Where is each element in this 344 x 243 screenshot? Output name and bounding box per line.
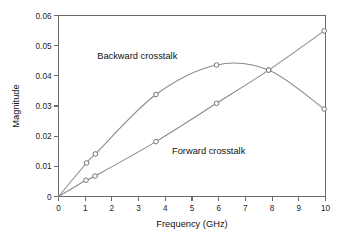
y-tick-label: 0.05 — [36, 42, 52, 51]
data-point-marker — [214, 63, 219, 68]
series-line-backward — [59, 63, 325, 197]
data-point-marker — [93, 152, 98, 157]
x-tick-label: 3 — [136, 204, 141, 213]
x-tick-label: 0 — [56, 204, 61, 213]
y-tick-label: 0.04 — [36, 72, 52, 81]
axis-tick-labels: 01234567891000.010.020.030.040.050.06 — [36, 12, 331, 213]
axis-ticks — [54, 16, 326, 202]
x-tick-label: 6 — [216, 204, 221, 213]
x-axis-title: Frequency (GHz) — [156, 219, 227, 229]
y-tick-label: 0.03 — [36, 102, 52, 111]
chart-figure: 01234567891000.010.020.030.040.050.06 Ba… — [0, 0, 344, 243]
data-point-marker — [322, 29, 327, 34]
series-annotations: Backward crosstalkForward crosstalk — [97, 51, 245, 156]
crosstalk-line-chart: 01234567891000.010.020.030.040.050.06 Ba… — [0, 0, 344, 243]
y-tick-label: 0 — [47, 193, 52, 202]
plot-frame — [59, 16, 326, 197]
data-point-marker — [322, 107, 327, 112]
data-point-marker — [84, 178, 89, 183]
y-tick-label: 0.02 — [36, 132, 52, 141]
data-point-marker — [84, 161, 89, 166]
x-tick-label: 8 — [270, 204, 275, 213]
data-point-marker — [93, 174, 98, 179]
x-tick-label: 4 — [163, 204, 168, 213]
x-tick-label: 1 — [83, 204, 88, 213]
x-tick-label: 7 — [243, 204, 248, 213]
x-tick-label: 10 — [321, 204, 331, 213]
data-point-marker — [154, 139, 159, 144]
series-label-forward: Forward crosstalk — [172, 146, 246, 156]
data-point-marker — [266, 68, 271, 73]
x-tick-label: 2 — [110, 204, 115, 213]
axis-frame — [59, 16, 326, 197]
series-label-backward: Backward crosstalk — [97, 51, 177, 61]
y-tick-label: 0.01 — [36, 162, 52, 171]
x-tick-label: 9 — [297, 204, 302, 213]
y-tick-label: 0.06 — [36, 12, 52, 21]
data-point-marker — [154, 92, 159, 97]
y-axis-title: Magnitude — [11, 84, 21, 127]
x-tick-label: 5 — [190, 204, 195, 213]
data-point-marker — [214, 101, 219, 106]
